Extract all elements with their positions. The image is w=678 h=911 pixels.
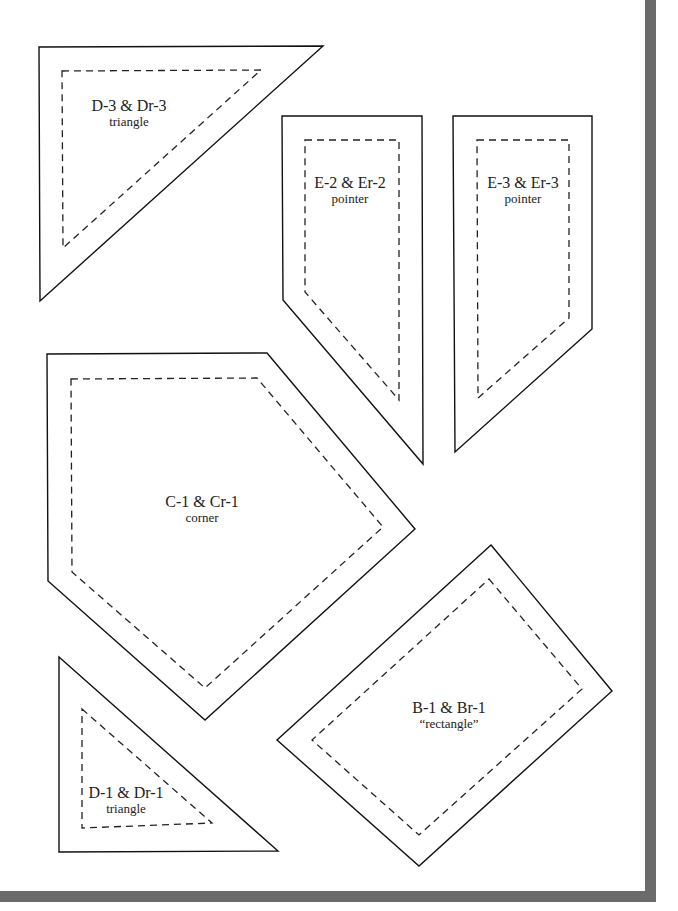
label-d3: D-3 & Dr-3 triangle bbox=[91, 98, 166, 128]
piece-e3-pointer bbox=[453, 116, 592, 452]
label-b1-main: B-1 & Br-1 bbox=[412, 700, 485, 717]
label-b1-sub: “rectangle” bbox=[412, 717, 485, 731]
label-c1-sub: corner bbox=[165, 511, 238, 525]
label-e3-main: E-3 & Er-3 bbox=[487, 175, 559, 192]
label-d1: D-1 & Dr-1 triangle bbox=[88, 785, 163, 815]
piece-d3-triangle bbox=[39, 46, 323, 301]
label-e3-sub: pointer bbox=[487, 192, 559, 206]
label-c1: C-1 & Cr-1 corner bbox=[165, 494, 238, 524]
pattern-pieces-canvas bbox=[0, 0, 678, 911]
label-c1-main: C-1 & Cr-1 bbox=[165, 494, 238, 511]
label-d3-sub: triangle bbox=[91, 115, 166, 129]
label-e2-sub: pointer bbox=[314, 192, 386, 206]
label-d3-main: D-3 & Dr-3 bbox=[91, 98, 166, 115]
label-d1-main: D-1 & Dr-1 bbox=[88, 785, 163, 802]
label-d1-sub: triangle bbox=[88, 802, 163, 816]
label-e2-main: E-2 & Er-2 bbox=[314, 175, 386, 192]
label-b1: B-1 & Br-1 “rectangle” bbox=[412, 700, 485, 730]
label-e2: E-2 & Er-2 pointer bbox=[314, 175, 386, 205]
label-e3: E-3 & Er-3 pointer bbox=[487, 175, 559, 205]
